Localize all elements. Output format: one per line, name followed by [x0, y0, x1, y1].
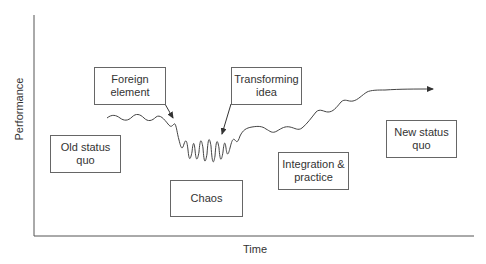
stage-box-integration-practice: Integration & practice	[278, 152, 349, 190]
new-status-quo-line-2: quo	[394, 139, 448, 152]
foreign-element-pointer	[165, 104, 173, 118]
stage-box-new-status-quo: New status quo	[386, 120, 457, 158]
foreign-element-line-2: element	[110, 86, 149, 99]
x-axis-label: Time	[240, 243, 270, 255]
transforming-idea-pointer	[222, 104, 231, 134]
stage-box-transforming-idea: Transforming idea	[231, 67, 302, 105]
integration-practice-line-2: practice	[282, 171, 344, 184]
chaos-label: Chaos	[191, 192, 223, 205]
integration-practice-line-1: Integration &	[282, 158, 344, 171]
old-status-quo-line-2: quo	[61, 154, 111, 167]
y-axis-label: Performance	[13, 74, 25, 144]
stage-box-chaos: Chaos	[170, 180, 243, 217]
stage-box-old-status-quo: Old status quo	[50, 135, 121, 173]
transforming-idea-line-1: Transforming	[234, 73, 298, 86]
transforming-idea-line-2: idea	[234, 86, 298, 99]
old-status-quo-line-1: Old status	[61, 141, 111, 154]
stage-box-foreign-element: Foreign element	[94, 67, 166, 105]
new-status-quo-line-1: New status	[394, 126, 448, 139]
foreign-element-line-1: Foreign	[110, 73, 149, 86]
diagram-canvas: Foreign element Transforming idea Old st…	[0, 0, 486, 264]
